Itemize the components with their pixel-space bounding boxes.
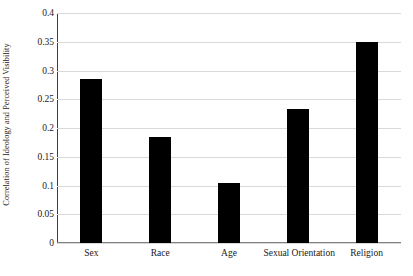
gridline (57, 243, 401, 244)
caption-clipped (0, 270, 413, 276)
gridline (57, 71, 401, 72)
y-axis-tick-label: 0.35 (16, 37, 54, 47)
y-axis-tick-label: 0.15 (16, 152, 54, 162)
y-axis-tick-labels: 00.050.10.150.20.250.30.350.4 (16, 0, 54, 276)
x-axis-tick-label: Race (126, 247, 195, 260)
bar (287, 109, 309, 243)
x-axis-category-labels: SexRaceAgeSexual OrientationReligion (57, 247, 401, 263)
bar-chart-figure: Correlation of Ideology and Perceived Vi… (0, 0, 413, 276)
gridline (57, 157, 401, 158)
bar (80, 79, 102, 243)
plot-area (57, 13, 401, 243)
y-axis-tick-label: 0.05 (16, 209, 54, 219)
y-axis-tick-label: 0.3 (16, 66, 54, 76)
gridline (57, 42, 401, 43)
x-axis-tick-label: Sex (57, 247, 126, 260)
y-axis-tick-label: 0.2 (16, 123, 54, 133)
x-axis-tick-label: Sexual Orientation (263, 247, 332, 260)
gridline (57, 99, 401, 100)
x-axis-tick-label: Religion (332, 247, 401, 260)
y-axis-tick-label: 0.25 (16, 94, 54, 104)
x-axis-tick-label: Age (195, 247, 264, 260)
gridline (57, 13, 401, 14)
gridline (57, 128, 401, 129)
y-axis-tick-label: 0.4 (16, 8, 54, 18)
bar (149, 137, 171, 243)
y-axis-label: Correlation of Ideology and Perceived Vi… (0, 3, 14, 246)
y-axis-tick-label: 0 (16, 238, 54, 248)
bar (218, 183, 240, 243)
y-axis-tick-label: 0.1 (16, 181, 54, 191)
bar (356, 42, 378, 243)
